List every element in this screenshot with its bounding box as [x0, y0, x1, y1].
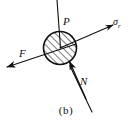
particle-body-circle: [44, 32, 77, 65]
label-radial-stress-sigma-r: σr: [113, 17, 121, 30]
label-friction-force-f: F: [19, 48, 26, 59]
force-diagram-figure: P F N σr (b): [0, 0, 132, 126]
sigma-subscript: r: [118, 22, 121, 30]
label-point-p: P: [63, 16, 70, 27]
figure-caption: (b): [0, 104, 132, 116]
label-normal-force-n: N: [80, 76, 87, 87]
